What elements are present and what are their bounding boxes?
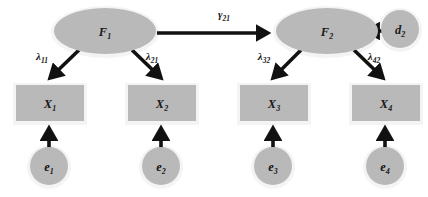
label-X3-sub: 3 [275, 104, 280, 113]
label-X1-sub: 1 [52, 104, 56, 113]
path-label-lambda42-sub: 42 [372, 56, 381, 65]
path-label-gamma21: γ21 [218, 8, 230, 23]
label-e3-sub: 3 [273, 167, 278, 176]
label-F2-sub: 2 [328, 32, 333, 41]
path-label-lambda21-sub: 21 [150, 56, 159, 65]
path-label-lambda11: λ11 [35, 50, 48, 65]
path-label-lambda32: λ32 [257, 50, 271, 65]
path-lambda32-arrow [273, 50, 301, 78]
label-e2-sub: 2 [161, 167, 166, 176]
path-label-lambda32-sub: 32 [262, 56, 271, 65]
label-X2-sub: 2 [163, 104, 168, 113]
path-label-gamma21-sub: 21 [222, 14, 231, 23]
label-X4-sub: 4 [387, 104, 392, 113]
diagram-canvas: F1 F2 d2 X1 X2 X3 X4 e1 [0, 0, 428, 197]
label-d2-sub: 2 [400, 30, 405, 39]
path-lambda11-arrow [50, 50, 79, 78]
label-e1-sub: 1 [50, 167, 54, 176]
path-label-lambda11-sub: 11 [41, 56, 48, 65]
label-e4-sub: 4 [385, 167, 390, 176]
sem-path-diagram: F1 F2 d2 X1 X2 X3 X4 e1 [0, 0, 428, 197]
label-F1-sub: 1 [107, 32, 111, 41]
